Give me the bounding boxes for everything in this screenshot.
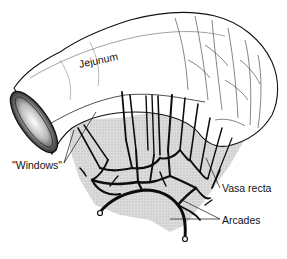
jejunum-diagram: Jejunum "Windows" Vasa recta Arcades	[0, 0, 287, 259]
label-arcades: Arcades	[222, 215, 261, 226]
label-vasa-recta: Vasa recta	[222, 183, 271, 194]
label-windows: "Windows"	[12, 160, 62, 171]
